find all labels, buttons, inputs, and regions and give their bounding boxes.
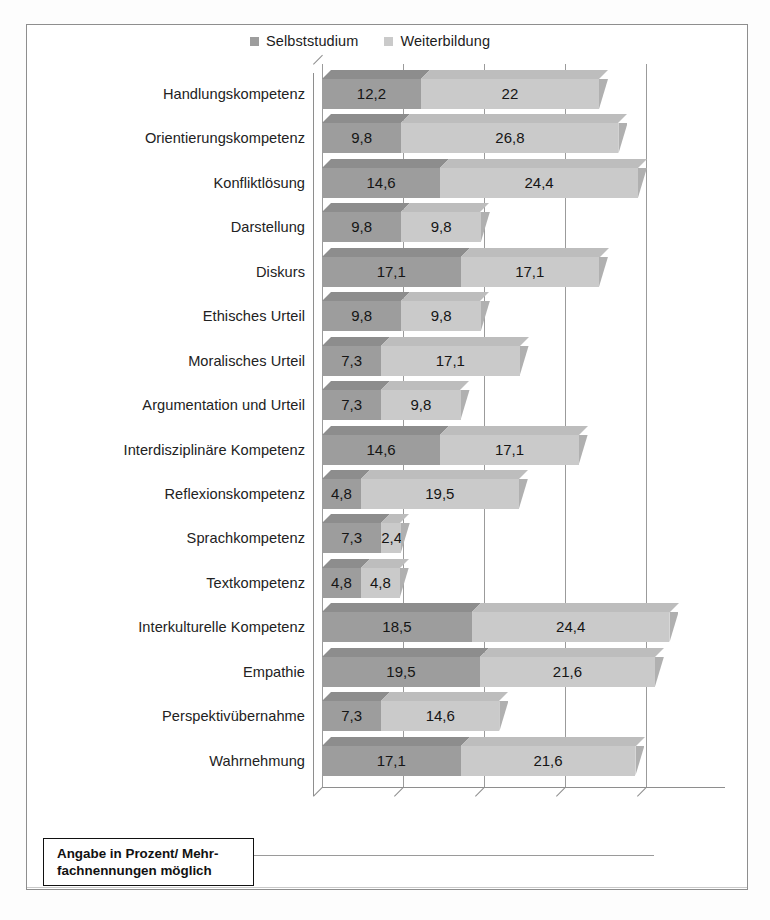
bar-value-label: 9,8 — [401, 301, 480, 331]
bar-segment-top-face — [401, 292, 489, 301]
bar-group: 14,624,4 — [313, 159, 725, 198]
bar-segment-top-face — [322, 203, 410, 212]
bar-end-cap — [519, 479, 528, 509]
plot-area: 12,2229,826,814,624,49,89,817,117,19,89,… — [313, 64, 725, 796]
bar-group: 7,32,4 — [313, 514, 725, 553]
bar-segment-selbststudium: 19,5 — [322, 657, 480, 687]
bar-end-cap — [655, 657, 664, 687]
bar-segment-weiterbildung: 24,4 — [472, 612, 670, 642]
category-label: Orientierungskompetenz — [15, 127, 305, 149]
bar-value-label: 7,3 — [322, 390, 381, 420]
bar-value-label: 17,1 — [461, 257, 600, 287]
bar-group: 7,314,6 — [313, 692, 725, 731]
bar-segment-weiterbildung: 4,8 — [361, 568, 400, 598]
bar-segment-selbststudium: 9,8 — [322, 212, 401, 242]
category-label: Empathie — [15, 661, 305, 683]
bar-segment-top-face — [322, 70, 430, 79]
bar-end-cap — [635, 746, 644, 776]
bar-segment-top-face — [381, 381, 469, 390]
bar-segment-selbststudium: 12,2 — [322, 79, 421, 109]
category-label: Textkompetenz — [15, 572, 305, 594]
bar-end-cap — [638, 168, 647, 198]
bar-segment-weiterbildung: 9,8 — [381, 390, 460, 420]
bar-segment-top-face — [361, 470, 528, 479]
bar-group: 17,121,6 — [313, 737, 725, 776]
bar-end-cap — [618, 123, 627, 153]
bar-value-label: 14,6 — [381, 701, 499, 731]
bar-segment-top-face — [322, 648, 489, 657]
bar-value-label: 9,8 — [401, 212, 480, 242]
bar-segment-selbststudium: 4,8 — [322, 479, 361, 509]
bar-segment-weiterbildung: 17,1 — [440, 435, 579, 465]
bar-value-label: 17,1 — [440, 435, 579, 465]
bar-value-label: 4,8 — [322, 479, 361, 509]
bar-value-label: 14,6 — [322, 435, 440, 465]
bottom-rule — [27, 887, 747, 888]
bar-end-cap — [599, 257, 608, 287]
bar-segment-top-face — [322, 159, 449, 168]
chart-legend: SelbststudiumWeiterbildung — [250, 30, 580, 52]
bar-segment-top-face — [461, 248, 609, 257]
category-label: Interdisziplinäre Kompetenz — [15, 439, 305, 461]
bar-segment-weiterbildung: 9,8 — [401, 301, 480, 331]
category-label: Konfliktlösung — [15, 172, 305, 194]
bar-value-label: 9,8 — [322, 212, 401, 242]
bar-value-label: 4,8 — [322, 568, 361, 598]
bar-end-cap — [481, 301, 490, 331]
bar-segment-weiterbildung: 21,6 — [480, 657, 655, 687]
legend-label: Weiterbildung — [400, 33, 490, 49]
bar-segment-weiterbildung: 17,1 — [461, 257, 600, 287]
category-label: Ethisches Urteil — [15, 305, 305, 327]
bar-value-label: 17,1 — [322, 257, 461, 287]
legend-item-0: Selbststudium — [250, 33, 358, 49]
bar-group: 14,617,1 — [313, 426, 725, 465]
legend-label: Selbststudium — [266, 33, 358, 49]
bar-end-cap — [461, 390, 470, 420]
bar-group: 7,317,1 — [313, 337, 725, 376]
bar-end-cap — [579, 435, 588, 465]
bar-end-cap — [669, 612, 678, 642]
bar-segment-top-face — [322, 692, 390, 701]
bar-value-label: 14,6 — [322, 168, 440, 198]
bar-value-label: 7,3 — [322, 701, 381, 731]
floor-tick-0 — [313, 787, 323, 797]
bar-segment-weiterbildung: 9,8 — [401, 212, 480, 242]
bar-segment-selbststudium: 14,6 — [322, 435, 440, 465]
bar-value-label: 9,8 — [381, 390, 460, 420]
bar-segment-weiterbildung: 19,5 — [361, 479, 519, 509]
floor-tick-10 — [394, 787, 404, 797]
floor-tick-30 — [556, 787, 566, 797]
bar-segment-top-face — [401, 203, 489, 212]
bar-group: 17,117,1 — [313, 248, 725, 287]
category-label: Sprachkompetenz — [15, 527, 305, 549]
legend-swatch-icon — [250, 37, 259, 46]
bar-group: 19,521,6 — [313, 648, 725, 687]
bar-end-cap — [520, 346, 529, 376]
bar-value-label: 21,6 — [461, 746, 636, 776]
bar-segment-top-face — [421, 70, 608, 79]
bar-end-cap — [401, 523, 410, 553]
bar-segment-top-face — [401, 114, 627, 123]
bar-value-label: 21,6 — [480, 657, 655, 687]
bar-value-label: 7,3 — [322, 523, 381, 553]
bar-segment-weiterbildung: 22 — [421, 79, 599, 109]
bar-segment-selbststudium: 17,1 — [322, 257, 461, 287]
bar-segment-top-face — [322, 426, 449, 435]
bar-segment-selbststudium: 4,8 — [322, 568, 361, 598]
bar-segment-top-face — [322, 248, 470, 257]
bar-segment-top-face — [322, 114, 410, 123]
bar-value-label: 19,5 — [361, 479, 519, 509]
bar-segment-weiterbildung: 24,4 — [440, 168, 638, 198]
category-label: Diskurs — [15, 261, 305, 283]
bar-group: 9,89,8 — [313, 203, 725, 242]
bar-segment-selbststudium: 14,6 — [322, 168, 440, 198]
bar-segment-top-face — [322, 381, 390, 390]
axis-bottom-back — [322, 787, 725, 788]
category-label: Wahrnehmung — [15, 750, 305, 772]
category-label: Darstellung — [15, 216, 305, 238]
bar-value-label: 2,4 — [381, 523, 400, 553]
bar-segment-selbststudium: 17,1 — [322, 746, 461, 776]
bar-segment-weiterbildung: 2,4 — [381, 523, 400, 553]
bar-group: 4,819,5 — [313, 470, 725, 509]
bar-value-label: 9,8 — [322, 123, 401, 153]
